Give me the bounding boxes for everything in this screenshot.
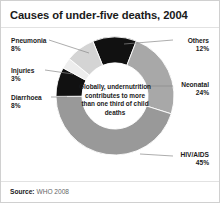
slice-label-neonatal: Neonatal 24% (181, 81, 209, 98)
slice-label-injuries: Injuries 3% (11, 67, 34, 84)
slice-label-hivaids-value: 45% (180, 159, 209, 167)
slice-label-pneumonia-name: Pneumonia (11, 37, 47, 44)
slice-label-injuries-name: Injuries (11, 67, 34, 74)
slice-label-injuries-value: 3% (11, 75, 34, 83)
source-note: Source: WHO 2008 (10, 188, 69, 195)
source-label: Source: (10, 188, 35, 195)
slice-label-others-value: 12% (188, 45, 209, 53)
footer-divider (1, 181, 220, 182)
slice-label-others: Others 12% (188, 37, 209, 54)
donut-slice-neonatal (127, 41, 174, 114)
source-value: WHO 2008 (36, 188, 69, 195)
slice-label-others-name: Others (188, 37, 209, 44)
slice-label-diarrhoea-value: 8% (11, 102, 42, 110)
slice-label-hivaids: HIV/AIDS 45% (180, 151, 209, 168)
slice-label-neonatal-value: 24% (181, 89, 209, 97)
chart-card: Causes of under-five deaths, 2004 Global… (0, 0, 220, 203)
slice-label-pneumonia-value: 8% (11, 45, 47, 53)
slice-label-diarrhoea-name: Diarrhoea (11, 94, 42, 101)
slice-label-diarrhoea: Diarrhoea 8% (11, 94, 42, 111)
slice-label-hivaids-name: HIV/AIDS (180, 151, 209, 158)
slice-label-neonatal-name: Neonatal (181, 81, 209, 88)
donut-chart-svg (56, 33, 174, 159)
slice-label-pneumonia: Pneumonia 8% (11, 37, 47, 54)
